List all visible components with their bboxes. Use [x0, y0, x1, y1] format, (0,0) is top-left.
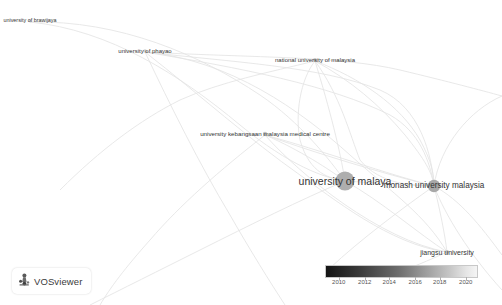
color-scale-legend: 201020122014201620182020: [325, 265, 478, 293]
legend-gradient-bar: [325, 265, 478, 278]
legend-tick-label: 2010: [332, 279, 345, 285]
vosviewer-logo-icon: [18, 272, 30, 290]
graph-node[interactable]: [313, 58, 317, 62]
network-graph-canvas[interactable]: [0, 0, 502, 305]
legend-tick-label: 2016: [409, 279, 422, 285]
legend-tick-label: 2018: [433, 279, 446, 285]
legend-tick-labels: 201020122014201620182020: [325, 279, 478, 293]
vosviewer-badge-label: VOSviewer: [34, 276, 82, 287]
nodes-layer[interactable]: [29, 20, 449, 254]
graph-node[interactable]: [143, 49, 147, 53]
legend-tick-label: 2014: [383, 279, 396, 285]
vosviewer-badge[interactable]: VOSviewer: [12, 268, 91, 294]
vosviewer-visualization[interactable]: university of brawijayauniversity of pha…: [0, 0, 502, 305]
graph-node[interactable]: [428, 180, 440, 192]
graph-node[interactable]: [445, 250, 449, 254]
legend-tick-label: 2020: [459, 279, 472, 285]
graph-node[interactable]: [29, 20, 32, 23]
edges-layer: [30, 22, 502, 305]
graph-node[interactable]: [336, 172, 355, 191]
graph-node[interactable]: [263, 132, 267, 136]
legend-tick-label: 2012: [358, 279, 371, 285]
